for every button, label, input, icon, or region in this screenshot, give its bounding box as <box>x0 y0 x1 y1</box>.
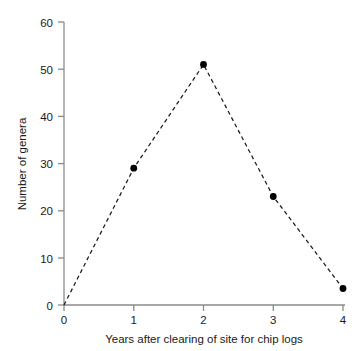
chart-background <box>0 0 363 351</box>
y-axis-title: Number of genera <box>16 117 28 210</box>
y-tick-label-60: 60 <box>40 17 53 29</box>
data-point-marker <box>270 193 277 200</box>
x-tick-label-4: 4 <box>340 314 347 326</box>
y-tick-label-20: 20 <box>40 205 53 217</box>
chart-canvas: 60 50 40 30 20 10 0 0 1 2 3 4 <box>0 0 363 351</box>
y-tick-label-10: 10 <box>40 253 53 265</box>
y-tick-label-0: 0 <box>47 300 53 312</box>
x-tick-label-1: 1 <box>131 314 137 326</box>
x-axis-title: Years after clearing of site for chip lo… <box>105 333 303 345</box>
y-tick-label-40: 40 <box>40 111 53 123</box>
line-chart-figure: 60 50 40 30 20 10 0 0 1 2 3 4 <box>0 0 363 351</box>
data-point-marker <box>130 165 137 172</box>
y-tick-label-50: 50 <box>40 64 53 76</box>
x-tick-label-0: 0 <box>61 314 67 326</box>
x-tick-label-2: 2 <box>200 314 206 326</box>
data-point-marker <box>340 285 347 292</box>
data-point-marker <box>200 61 207 68</box>
y-tick-label-30: 30 <box>40 158 53 170</box>
x-tick-label-3: 3 <box>270 314 276 326</box>
